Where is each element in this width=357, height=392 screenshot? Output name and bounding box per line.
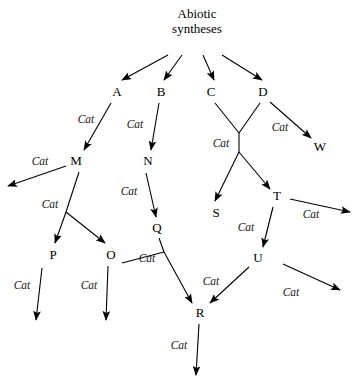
- edge-M-to-P: [55, 212, 66, 243]
- pathway-diagram: AbioticsynthesesABCDWMNSTQPOUR CatCatCat…: [0, 0, 357, 392]
- node-root-line1: Abiotic: [172, 7, 222, 22]
- edge-label-N-to-Q: Cat: [121, 185, 138, 197]
- edge-root-to-B: [164, 55, 182, 80]
- node-W: W: [314, 140, 326, 155]
- edge-N-to-Q: [146, 173, 156, 217]
- node-root: Abioticsyntheses: [172, 7, 222, 37]
- edge-M-to-O: [66, 212, 105, 243]
- node-S: S: [212, 206, 219, 221]
- edge-layer: [0, 0, 357, 392]
- edge-label-U-right: Cat: [283, 286, 300, 298]
- edge-M-to-left: [8, 166, 66, 186]
- node-O: O: [106, 248, 115, 263]
- edge-label-O-down: Cat: [81, 279, 98, 291]
- edge-R-down: [196, 324, 199, 375]
- edge-X-to-S: [215, 152, 239, 201]
- edge-root-to-A: [122, 55, 168, 80]
- edge-D-to-X: [239, 103, 260, 133]
- edge-X-to-T: [239, 152, 270, 189]
- node-U: U: [253, 251, 262, 266]
- edge-label-B-to-N: Cat: [127, 118, 144, 130]
- node-D: D: [258, 85, 267, 100]
- node-M: M: [70, 154, 82, 169]
- edge-label-R-down: Cat: [171, 339, 188, 351]
- node-Q: Q: [152, 221, 161, 236]
- edge-root-to-C: [203, 55, 214, 80]
- node-B: B: [157, 85, 166, 100]
- edge-Q-to-qjunction: [159, 238, 164, 252]
- edge-label-T-right: Cat: [303, 208, 320, 220]
- edge-paths: [8, 55, 350, 375]
- node-P: P: [49, 248, 56, 263]
- edge-label-O-to-qjunction: Cat: [139, 252, 156, 264]
- node-T: T: [273, 189, 281, 204]
- edge-root-to-D: [222, 55, 262, 80]
- edge-label-U-to-R: Cat: [203, 275, 220, 287]
- node-A: A: [112, 85, 121, 100]
- edge-label-T-to-U: Cat: [238, 221, 255, 233]
- edge-M-to-junction: [66, 172, 79, 212]
- edge-label-D-to-W: Cat: [272, 121, 289, 133]
- edge-P-down: [36, 268, 42, 320]
- node-root-line2: syntheses: [172, 22, 222, 37]
- node-C: C: [207, 85, 216, 100]
- edge-T-to-U: [263, 207, 273, 247]
- edge-O-down: [106, 266, 108, 320]
- node-N: N: [143, 154, 152, 169]
- edge-label-X-stem: Cat: [213, 137, 230, 149]
- edge-label-P-down: Cat: [14, 279, 31, 291]
- edge-label-M-to-left: Cat: [32, 155, 49, 167]
- edge-qjunction-to-R: [164, 252, 192, 303]
- edge-C-to-X: [215, 103, 239, 133]
- node-R: R: [196, 306, 205, 321]
- edge-A-to-M: [84, 103, 111, 150]
- edge-label-M-to-junction: Cat: [42, 198, 59, 210]
- edge-T-right: [290, 199, 350, 212]
- edge-label-A-to-M: Cat: [78, 113, 95, 125]
- edge-B-to-N: [151, 103, 159, 150]
